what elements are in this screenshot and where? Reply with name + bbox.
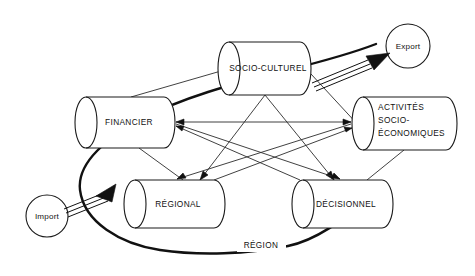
link-financier-decisionnel [176,124,340,179]
node-financier[interactable]: FINANCIER [75,97,175,148]
import-flow-arrow [64,184,116,217]
financier-label: FINANCIER [105,117,153,127]
export-flow-line-1 [312,60,368,83]
export-label: Export [396,42,421,51]
node-export[interactable]: Export [386,24,430,68]
export-arrowhead [366,53,390,70]
regional-label: RÉGIONAL [155,199,201,209]
region-label: RÉGION [244,240,279,250]
arrowhead-financier-bottom [176,126,184,131]
import-flow-line-2 [66,197,106,213]
link-activites-regional [177,124,351,179]
diagram-canvas: SOCIO-CULTUREL FINANCIER ACTIVITÉS SOCIO… [0,0,475,276]
region-label-group: RÉGION [237,239,286,252]
link-socioculturel-decisionnel [265,95,334,180]
arrowhead-decisionnel-left [331,173,340,179]
node-regional[interactable]: RÉGIONAL [124,180,225,228]
export-flow-arrow [312,53,390,91]
arrowhead-regional-left [177,173,186,179]
node-import[interactable]: Import [26,195,68,237]
activites-label-line-3: ÉCONOMIQUES [378,128,445,138]
socio-culturel-label: SOCIO-CULTUREL [229,63,307,73]
arrowhead-regional-top [200,171,208,180]
link-activites-decisionnel [367,150,404,180]
arrowhead-activites-bottom [344,127,352,132]
diagram-root: SOCIO-CULTUREL FINANCIER ACTIVITÉS SOCIO… [0,0,475,276]
node-decisionnel[interactable]: DÉCISIONNEL [292,180,393,228]
decisionnel-label: DÉCISIONNEL [316,199,376,209]
activites-label-line-2: SOCIO- [378,115,410,125]
link-financier-regional [139,148,183,180]
node-socio-culturel[interactable]: SOCIO-CULTUREL [218,42,311,95]
export-flow-line-2 [314,64,370,87]
link-socioculturel-regional [200,95,265,180]
node-activites-socio-economiques[interactable]: ACTIVITÉS SOCIO- ÉCONOMIQUES [352,97,457,150]
import-label: Import [35,212,60,221]
activites-label-line-1: ACTIVITÉS [378,102,424,112]
import-flow-line-3 [68,201,108,217]
export-flow-line-3 [316,68,372,91]
link-decisionnel-financier [176,126,300,180]
